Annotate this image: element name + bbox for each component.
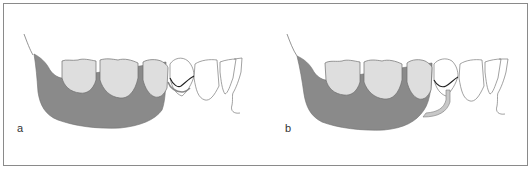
panel-a: a: [0, 0, 266, 173]
denture-illustration-a: [0, 0, 266, 173]
panel-b: b: [266, 0, 532, 173]
panel-label-b: b: [285, 122, 291, 134]
denture-illustration-b: [266, 0, 532, 173]
panel-label-a: a: [17, 122, 23, 134]
